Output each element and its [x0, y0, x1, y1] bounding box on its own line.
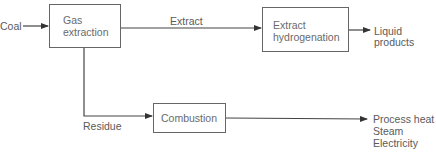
node-gas-extraction-line1: Gas: [63, 14, 82, 26]
node-extract-hydrogenation-line2: hydrogenation: [273, 31, 340, 43]
node-combustion: Combustion: [153, 103, 226, 133]
edge-extract-label: Extract: [170, 15, 203, 27]
output-electricity: Electricity: [373, 137, 418, 149]
input-coal-label: Coal: [0, 20, 22, 32]
output-process-heat: Process heat: [373, 113, 434, 125]
node-extract-hydrogenation: Extract hydrogenation: [262, 7, 349, 52]
node-extract-hydrogenation-line1: Extract: [273, 19, 306, 31]
output-steam: Steam: [373, 125, 403, 137]
node-gas-extraction: Gas extraction: [49, 4, 121, 48]
node-gas-extraction-line2: extraction: [63, 26, 109, 38]
node-combustion-label: Combustion: [161, 112, 217, 124]
output-liquid-line2: products: [374, 36, 414, 48]
edge-residue-label: Residue: [83, 120, 122, 132]
